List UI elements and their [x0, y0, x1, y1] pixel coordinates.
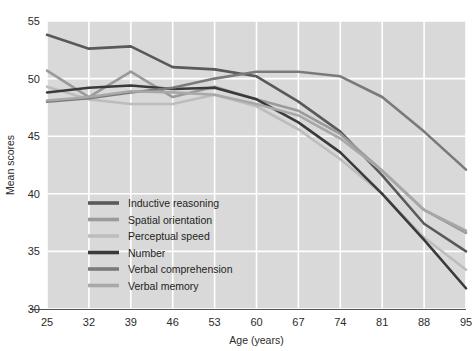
- legend-label: Spatial orientation: [128, 214, 212, 226]
- y-tick-label: 40: [28, 188, 40, 200]
- x-tick-label: 95: [460, 316, 472, 328]
- x-tick-label: 74: [334, 316, 346, 328]
- x-tick-label: 81: [376, 316, 388, 328]
- y-tick-label: 30: [28, 303, 40, 315]
- legend-label: Inductive reasoning: [128, 197, 219, 209]
- y-tick-label: 55: [28, 15, 40, 27]
- y-tick-label: 45: [28, 130, 40, 142]
- legend-label: Verbal memory: [128, 280, 199, 292]
- x-axis-title: Age (years): [229, 334, 283, 346]
- x-tick-label: 53: [208, 316, 220, 328]
- x-tick-label: 88: [418, 316, 430, 328]
- y-tick-label: 35: [28, 245, 40, 257]
- y-axis-title: Mean scores: [4, 135, 16, 195]
- x-tick-label: 46: [167, 316, 179, 328]
- legend-label: Perceptual speed: [128, 230, 210, 242]
- x-tick-label: 39: [125, 316, 137, 328]
- line-chart: 303540455055 2532394653606774818895 Age …: [0, 0, 475, 351]
- y-tick-label: 50: [28, 73, 40, 85]
- legend-label: Verbal comprehension: [128, 263, 233, 275]
- x-tick-label: 60: [250, 316, 262, 328]
- x-tick-label: 25: [41, 316, 53, 328]
- chart-canvas: 303540455055 2532394653606774818895 Age …: [0, 0, 475, 351]
- x-tick-label: 67: [292, 316, 304, 328]
- legend-label: Number: [128, 247, 166, 259]
- x-tick-label: 32: [83, 316, 95, 328]
